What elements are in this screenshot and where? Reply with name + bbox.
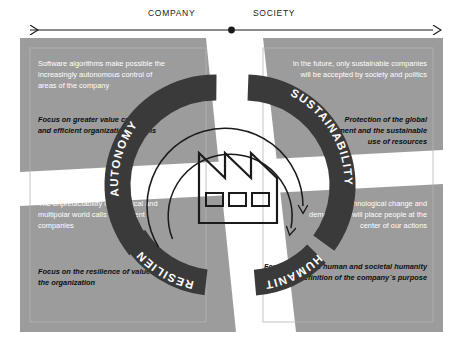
quadrant-autonomy-bold: Focus on greater value creation and effi… [38, 114, 160, 136]
quadrant-autonomy-lead: Software algorithms make possible the in… [38, 58, 170, 92]
quadrant-humanity-lead: Technological change and demography will… [303, 198, 427, 232]
quadrant-sustainability-lead: In the future, only sustainable companie… [287, 58, 427, 80]
axis-svg [0, 0, 463, 40]
axis-label-society: SOCIETY [253, 8, 295, 18]
quadrant-board: Software algorithms make possible the in… [20, 38, 443, 332]
quadrant-resilience-bold: Focus on the resilience of value creatio… [38, 266, 208, 288]
company-society-axis: COMPANY SOCIETY [0, 0, 463, 40]
axis-center-dot [228, 27, 235, 34]
diagram-canvas: COMPANY SOCIETY Software algorithms make… [0, 0, 463, 349]
quadrant-resilience-lead: The unpredictability of a political and … [38, 198, 160, 232]
axis-label-company: COMPANY [148, 8, 195, 18]
quadrant-humanity-bold: Focusing on the human and societal human… [259, 261, 427, 283]
quadrant-sustainability-bold: Protection of the global environment and… [303, 114, 427, 148]
